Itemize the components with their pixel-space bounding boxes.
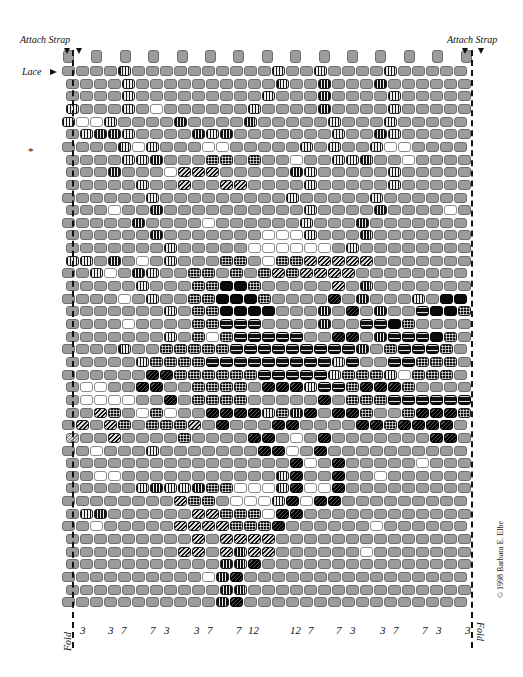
bead xyxy=(188,193,201,203)
bead xyxy=(234,180,247,190)
bead xyxy=(416,395,429,405)
bead xyxy=(132,294,145,304)
bead xyxy=(290,408,303,418)
bead xyxy=(272,193,285,203)
bead xyxy=(454,496,467,506)
bead xyxy=(290,509,303,519)
bead xyxy=(262,395,275,405)
bead xyxy=(108,155,121,165)
bead xyxy=(444,256,457,266)
bead xyxy=(206,319,219,329)
bead xyxy=(206,458,219,468)
bead xyxy=(220,319,233,329)
bead xyxy=(444,180,457,190)
bead xyxy=(206,357,219,367)
bead xyxy=(220,155,233,165)
bead xyxy=(412,446,425,456)
bead xyxy=(216,193,229,203)
bead xyxy=(360,205,373,215)
column-count-label: 3 xyxy=(194,624,200,636)
bead xyxy=(220,547,233,557)
bead xyxy=(206,167,219,177)
column-count-label: 3 xyxy=(80,624,86,636)
bead xyxy=(360,306,373,316)
bead xyxy=(136,458,149,468)
bead xyxy=(360,155,373,165)
bead xyxy=(402,79,415,89)
bead xyxy=(94,205,107,215)
bead xyxy=(80,281,93,291)
bead xyxy=(150,230,163,240)
bead xyxy=(416,458,429,468)
bead xyxy=(360,79,373,89)
bead xyxy=(136,332,149,342)
lace-label: Lace xyxy=(22,66,41,77)
bead xyxy=(342,294,355,304)
bead xyxy=(328,268,341,278)
bead xyxy=(122,129,135,139)
bead xyxy=(160,117,173,127)
bead xyxy=(262,129,275,139)
bead xyxy=(136,471,149,481)
bead xyxy=(230,446,243,456)
bead xyxy=(346,433,359,443)
bead xyxy=(318,91,331,101)
bead xyxy=(122,559,135,569)
bead xyxy=(412,420,425,430)
bead xyxy=(136,382,149,392)
bead xyxy=(136,319,149,329)
bead xyxy=(458,471,471,481)
bead xyxy=(108,129,121,139)
bead xyxy=(318,458,331,468)
bead xyxy=(234,395,247,405)
bead xyxy=(216,66,229,76)
bead xyxy=(402,509,415,519)
bead xyxy=(332,129,345,139)
bead xyxy=(454,142,467,152)
bead xyxy=(272,117,285,127)
bead xyxy=(304,243,317,253)
bead xyxy=(174,572,187,582)
bead xyxy=(440,370,453,380)
bead xyxy=(276,395,289,405)
bead xyxy=(402,205,415,215)
bead xyxy=(402,382,415,392)
bead xyxy=(150,433,163,443)
column-count-label: 7 xyxy=(308,624,314,636)
bead xyxy=(356,446,369,456)
bead xyxy=(286,142,299,152)
bead xyxy=(318,408,331,418)
bead xyxy=(248,509,261,519)
bead xyxy=(146,521,159,531)
bead xyxy=(216,294,229,304)
bead xyxy=(234,104,247,114)
bead xyxy=(118,572,131,582)
bead xyxy=(178,243,191,253)
bead xyxy=(332,547,345,557)
bead xyxy=(80,319,93,329)
bead xyxy=(286,268,299,278)
bead xyxy=(290,483,303,493)
bead xyxy=(202,446,215,456)
bead xyxy=(430,534,443,544)
bead xyxy=(192,180,205,190)
bead xyxy=(136,433,149,443)
bead xyxy=(104,117,117,127)
bead xyxy=(164,230,177,240)
bead xyxy=(146,66,159,76)
bead xyxy=(164,585,177,595)
bead xyxy=(258,268,271,278)
strap-tab-bead xyxy=(375,50,386,63)
bead xyxy=(454,294,467,304)
bead xyxy=(388,79,401,89)
bead xyxy=(398,420,411,430)
bead xyxy=(188,597,201,607)
bead xyxy=(76,66,89,76)
bead xyxy=(192,458,205,468)
bead xyxy=(262,281,275,291)
bead xyxy=(370,66,383,76)
bead xyxy=(290,155,303,165)
bead xyxy=(160,496,173,506)
column-count-label: 7 xyxy=(422,624,428,636)
bead xyxy=(150,559,163,569)
